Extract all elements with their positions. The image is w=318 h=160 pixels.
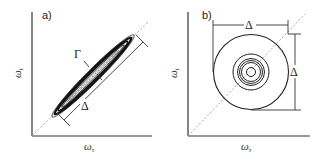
panel-b: Δ Δ b) ωτ ωt bbox=[167, 9, 310, 154]
panel-a: Γ Δ a) ωτ ωt bbox=[11, 9, 152, 154]
figure-canvas: Γ Δ a) ωτ ωt Δ Δ bbox=[0, 0, 318, 160]
delta-label-b-vertical: Δ bbox=[290, 65, 298, 79]
panel-b-diagonal bbox=[188, 14, 305, 136]
panel-b-xlabel: ωτ bbox=[241, 140, 252, 154]
panel-a-ylabel: ωt bbox=[11, 67, 25, 78]
panel-b-contours bbox=[214, 35, 289, 110]
delta-bracket-a-end2 bbox=[136, 35, 148, 47]
gamma-marker-upper bbox=[84, 61, 89, 67]
delta-label-a: Δ bbox=[81, 99, 89, 113]
panel-b-ylabel: ωt bbox=[167, 67, 181, 78]
panel-b-label: b) bbox=[202, 9, 212, 21]
panel-a-label: a) bbox=[42, 9, 52, 21]
gamma-label: Γ bbox=[74, 47, 81, 61]
delta-bracket-a-end1 bbox=[57, 113, 70, 126]
panel-a-xlabel: ωτ bbox=[84, 140, 95, 154]
delta-label-b-horizontal: Δ bbox=[245, 18, 253, 32]
